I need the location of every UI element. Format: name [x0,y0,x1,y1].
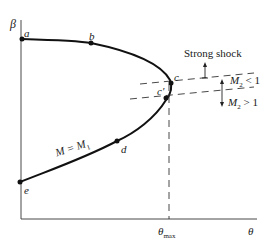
strong-shock-label: Strong shock [184,48,242,59]
point-d [115,139,120,144]
arrow-up-icon [220,79,224,84]
shock-polar-diagram: β θ θmax a b c c′ d e Strong shock M2 < … [0,0,274,250]
y-axis-label: β [10,18,16,30]
label-c: c [174,72,179,83]
m2-less-than-1-label: M2 < 1 [230,75,260,89]
label-a: a [24,28,30,39]
diagram-graphics [0,0,274,250]
arrow-down-icon [220,102,224,107]
point-c [169,81,174,86]
label-c-prime: c′ [157,86,164,97]
label-b: b [89,31,95,42]
label-d: d [121,144,127,155]
theta-max-label: θmax [158,226,175,240]
m2-greater-than-1-label: M2 > 1 [228,97,258,111]
beta-theta-curve [20,39,171,182]
x-axis-label: θ [248,226,253,237]
point-e [18,180,23,185]
label-e: e [24,185,29,196]
arrow-up-icon [203,62,207,67]
